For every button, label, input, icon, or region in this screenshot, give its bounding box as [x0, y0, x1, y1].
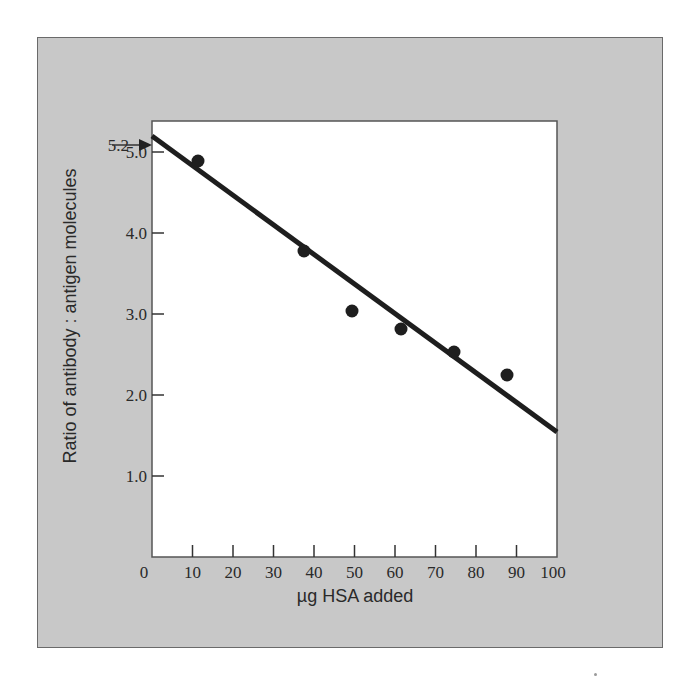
x-tick-label: 10 [184, 563, 201, 582]
data-point [448, 346, 461, 359]
y-axis-title: Ratio of antibody : antigen molecules [60, 168, 80, 463]
y-tick-label: 4.0 [126, 224, 147, 243]
data-point [192, 155, 205, 168]
stray-dot [594, 673, 597, 676]
data-point [346, 305, 359, 318]
x-tick-label: 70 [427, 563, 444, 582]
x-axis-tick-labels: 0 10 20 30 40 50 60 70 80 90 100 [140, 563, 566, 582]
x-tick-label: 0 [140, 563, 149, 582]
x-tick-label: 40 [306, 563, 323, 582]
x-tick-label: 50 [346, 563, 363, 582]
x-tick-label: 60 [387, 563, 404, 582]
x-tick-label: 30 [265, 563, 282, 582]
x-tick-label: 90 [508, 563, 525, 582]
scatter-chart: 5.0 4.0 3.0 2.0 1.0 0 10 20 30 40 50 60 … [0, 0, 695, 687]
y-tick-label: 3.0 [126, 305, 147, 324]
x-tick-label: 80 [468, 563, 485, 582]
data-point [298, 245, 311, 258]
y-tick-label: 2.0 [126, 386, 147, 405]
y-axis-tick-labels: 5.0 4.0 3.0 2.0 1.0 [126, 143, 147, 486]
x-axis-title: µg HSA added [297, 586, 413, 606]
y-tick-label: 1.0 [126, 467, 147, 486]
plot-area [152, 121, 557, 557]
x-tick-label: 100 [540, 563, 566, 582]
data-point [395, 323, 408, 336]
x-tick-label: 20 [225, 563, 242, 582]
data-point [501, 369, 514, 382]
